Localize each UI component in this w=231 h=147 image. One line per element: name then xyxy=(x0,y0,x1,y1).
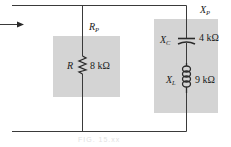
circuit-figure: RP R 8 kΩ XP XC 4 kΩ XL 9 kΩ FIG. 15.xx xyxy=(0,0,231,147)
capacitor-value-label: 4 kΩ xyxy=(199,33,219,43)
capacitor-symbol-label: XC xyxy=(160,35,170,47)
current-arrow-icon xyxy=(0,22,24,28)
resistor-value-label: 8 kΩ xyxy=(90,61,110,71)
inductor-symbol-label: XL xyxy=(166,75,176,87)
figure-caption: FIG. 15.xx xyxy=(78,136,120,143)
inductor-value-label: 9 kΩ xyxy=(195,75,215,85)
rp-shaded-box xyxy=(53,36,120,97)
resistor-symbol-label: R xyxy=(67,61,73,71)
rp-group-label: RP xyxy=(89,22,99,34)
xp-group-label: XP xyxy=(200,5,210,17)
